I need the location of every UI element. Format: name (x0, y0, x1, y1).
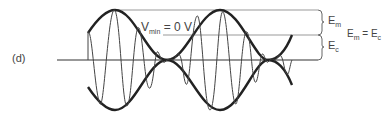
equality-label: Em = Ec (347, 28, 381, 41)
em-label: Em (328, 14, 341, 28)
panel-label: (d) (12, 52, 25, 64)
ec-label: Ec (328, 39, 339, 53)
ec-brace (318, 35, 324, 60)
vmin-label: Vmin = 0 V (141, 20, 192, 35)
em-brace (318, 10, 324, 35)
